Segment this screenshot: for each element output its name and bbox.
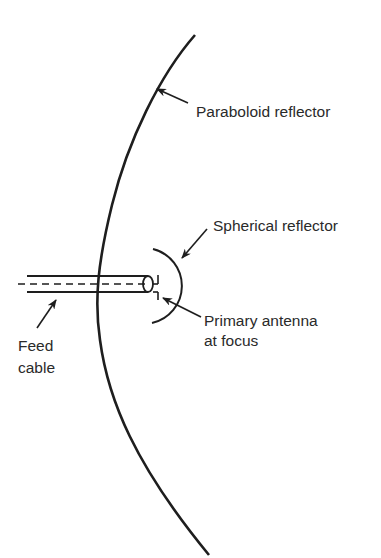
feed-cable: [18, 276, 153, 292]
feed-cable-arrow: [37, 300, 56, 328]
spherical-arrow: [182, 229, 207, 258]
feed-cable-label-line1: Feed: [18, 337, 53, 354]
feed-cable-label-line2: cable: [18, 359, 55, 376]
primary-antenna-label-line2: at focus: [204, 332, 259, 349]
antenna-diagram: Paraboloid reflector Spherical reflector…: [0, 0, 381, 558]
primary-antenna: [153, 275, 158, 300]
primary-antenna-label-line1: Primary antenna: [204, 312, 318, 329]
spherical-label: Spherical reflector: [213, 217, 338, 234]
paraboloid-label: Paraboloid reflector: [196, 103, 330, 120]
paraboloid-reflector: [97, 35, 209, 555]
spherical-reflector: [152, 249, 182, 323]
paraboloid-arrow: [157, 89, 188, 103]
